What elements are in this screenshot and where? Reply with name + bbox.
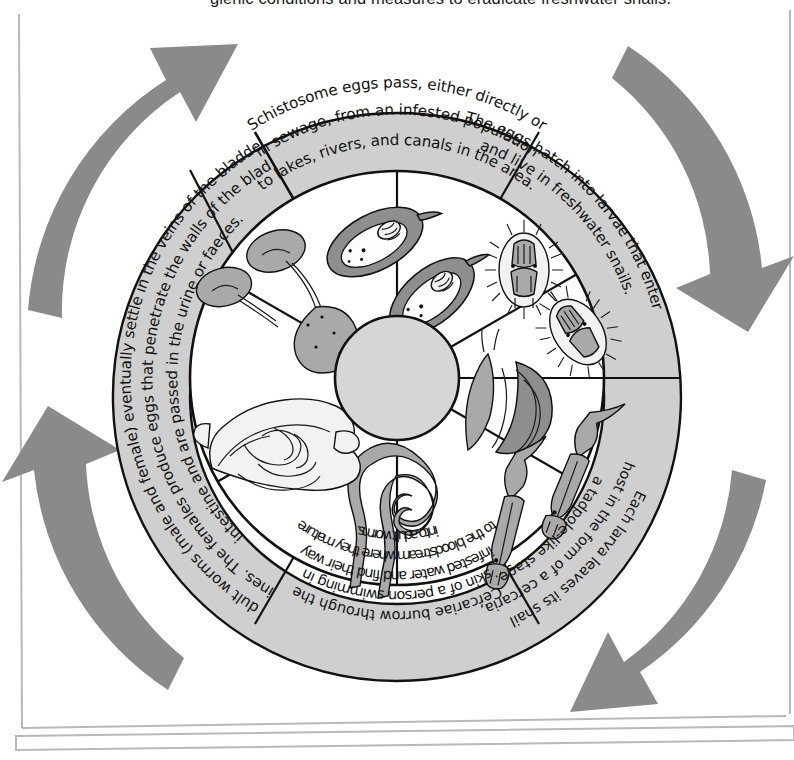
scan-frame-left: [19, 14, 22, 728]
scan-frame-bottom-inner: [22, 716, 786, 728]
clipped-top-caption-text: gienic conditions and measures to eradic…: [210, 0, 671, 8]
life-cycle-wheel: Schistosome eggs pass, either directly o…: [0, 0, 794, 760]
wheel-hub: [335, 316, 459, 440]
clipped-top-caption: gienic conditions and measures to eradic…: [0, 0, 794, 14]
diagram-stage: gienic conditions and measures to eradic…: [0, 0, 794, 760]
scan-frame-bottom-edge: [16, 726, 794, 750]
